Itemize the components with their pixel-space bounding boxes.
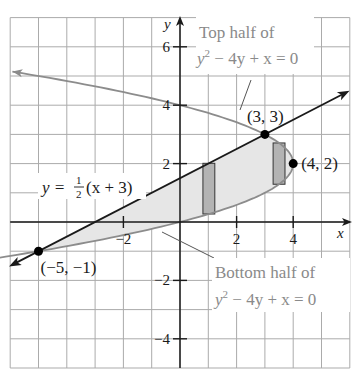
y-axis-label: y: [162, 16, 171, 32]
point-marker: [34, 247, 43, 256]
svg-text:2: 2: [76, 188, 82, 200]
y-tick-label: 4: [163, 97, 171, 113]
point-marker: [289, 159, 298, 168]
y-tick-label: −2: [154, 272, 170, 288]
point-label: (4, 2): [301, 154, 338, 173]
y-tick-label: −4: [154, 331, 170, 347]
graph-figure: −224642−2−4 x y y = 1 2 (x + 3) Top half…: [0, 0, 356, 380]
svg-text:y2 − 4y + x = 0: y2 − 4y + x = 0: [213, 288, 316, 309]
y-tick-label: 2: [163, 156, 171, 172]
svg-text:1: 1: [76, 174, 82, 186]
point-label: (−5, −1): [41, 258, 97, 277]
x-tick-label: 4: [289, 231, 297, 247]
x-axis-label: x: [336, 225, 344, 241]
approximating-rectangle: [203, 163, 215, 214]
svg-text:Bottom half of: Bottom half of: [215, 263, 315, 282]
svg-text:y2 − 4y + x = 0: y2 − 4y + x = 0: [195, 47, 298, 68]
svg-text:Top half of: Top half of: [199, 23, 275, 42]
bottom-half-leader-line: [162, 232, 214, 258]
approximating-rectangle: [273, 143, 285, 184]
svg-text:(x + 3): (x + 3): [86, 178, 132, 197]
y-tick-label: 6: [163, 39, 171, 55]
point-label: (3, 3): [247, 107, 284, 126]
svg-text:y =: y =: [40, 178, 65, 197]
point-marker: [260, 130, 269, 139]
line-equation-label: y = 1 2 (x + 3): [40, 174, 132, 200]
x-tick-label: 2: [233, 231, 241, 247]
x-tick-label: −2: [115, 231, 131, 247]
